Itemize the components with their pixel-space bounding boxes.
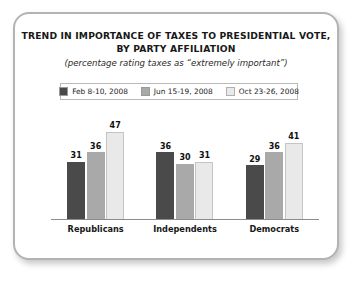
chart-title-line-2: BY PARTY AFFILIATION	[15, 43, 337, 56]
bar-rect[interactable]	[106, 132, 124, 220]
bar-group: 293641	[230, 114, 319, 220]
bar-value-label: 36	[90, 142, 101, 151]
bar-item[interactable]: 31	[67, 114, 85, 220]
legend-label-feb: Feb 8-10, 2008	[72, 87, 128, 96]
chart-title-line-1: TREND IN IMPORTANCE OF TAXES TO PRESIDEN…	[15, 30, 337, 43]
bar-groups: 313647363031293641	[51, 114, 319, 220]
bar-value-label: 36	[269, 142, 280, 151]
bar-value-label: 31	[71, 151, 82, 160]
bar-value-label: 30	[179, 153, 190, 162]
bar-rect[interactable]	[285, 143, 303, 220]
chart-legend: Feb 8-10, 2008 Jun 15-19, 2008 Oct 23-26…	[60, 83, 298, 100]
bar-item[interactable]: 47	[106, 114, 124, 220]
legend-item-oct[interactable]: Oct 23-26, 2008	[226, 87, 299, 96]
bar-value-label: 41	[288, 132, 299, 141]
bar-rect[interactable]	[246, 165, 264, 220]
category-label: Independents	[140, 224, 229, 234]
x-axis-line	[51, 219, 319, 220]
category-label: Democrats	[230, 224, 319, 234]
bar-group: 313647	[51, 114, 140, 220]
chart-title-block: TREND IN IMPORTANCE OF TAXES TO PRESIDEN…	[15, 30, 337, 70]
chart-plot-area: 313647363031293641	[51, 114, 319, 220]
bar-value-label: 36	[160, 142, 171, 151]
bar-rect[interactable]	[156, 152, 174, 220]
bar-item[interactable]: 31	[195, 114, 213, 220]
legend-swatch-icon-feb	[59, 87, 68, 96]
bar-item[interactable]: 29	[246, 114, 264, 220]
bar-value-label: 47	[110, 121, 121, 130]
bar-rect[interactable]	[87, 152, 105, 220]
bar-item[interactable]: 36	[156, 114, 174, 220]
legend-item-feb[interactable]: Feb 8-10, 2008	[59, 87, 128, 96]
category-labels: RepublicansIndependentsDemocrats	[51, 224, 319, 234]
bar-rect[interactable]	[265, 152, 283, 220]
bar-item[interactable]: 41	[285, 114, 303, 220]
legend-label-oct: Oct 23-26, 2008	[239, 87, 299, 96]
bar-rect[interactable]	[195, 162, 213, 220]
bar-item[interactable]: 36	[87, 114, 105, 220]
legend-swatch-icon-oct	[226, 87, 235, 96]
category-label: Republicans	[51, 224, 140, 234]
bar-rect[interactable]	[67, 162, 85, 220]
bar-value-label: 31	[199, 151, 210, 160]
bar-rect[interactable]	[176, 164, 194, 220]
bar-value-label: 29	[249, 155, 260, 164]
legend-swatch-icon-jun	[141, 87, 150, 96]
chart-subtitle: (percentage rating taxes as “extremely i…	[15, 56, 337, 70]
chart-card: TREND IN IMPORTANCE OF TAXES TO PRESIDEN…	[13, 12, 339, 260]
legend-label-jun: Jun 15-19, 2008	[154, 87, 213, 96]
bar-item[interactable]: 30	[176, 114, 194, 220]
legend-item-jun[interactable]: Jun 15-19, 2008	[141, 87, 213, 96]
bar-group: 363031	[140, 114, 229, 220]
bar-item[interactable]: 36	[265, 114, 283, 220]
